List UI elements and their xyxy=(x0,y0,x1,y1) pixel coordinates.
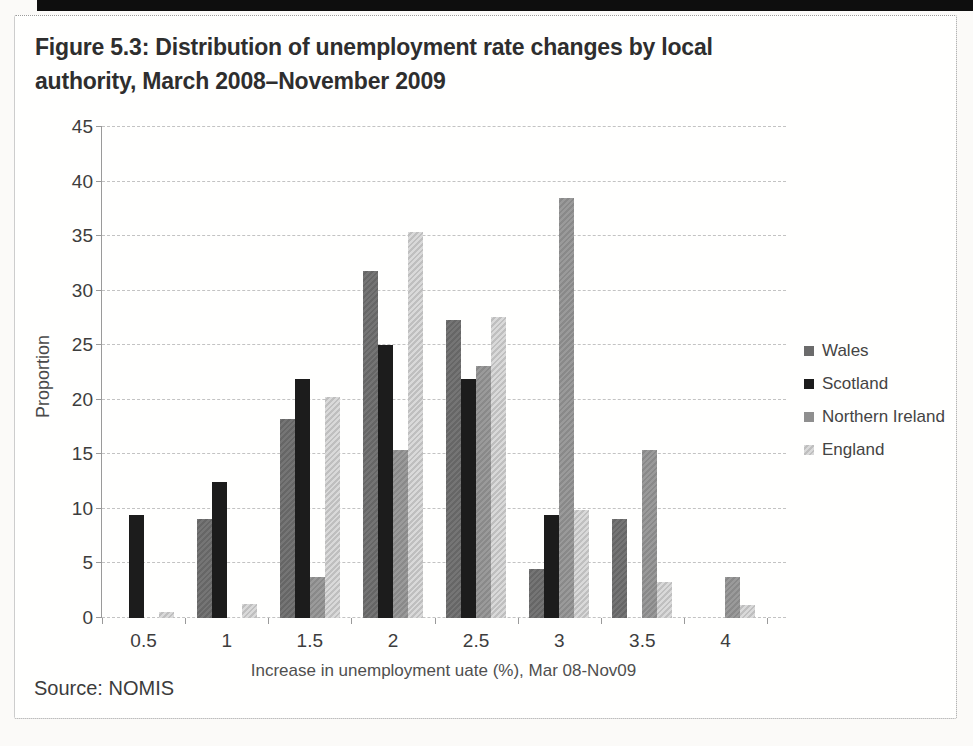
bar-wales-2.5 xyxy=(446,320,461,618)
x-tick-mark xyxy=(601,618,602,624)
bar-group-3 xyxy=(518,127,601,618)
bar-northern-ireland-4 xyxy=(725,577,740,619)
bar-scotland-1.5 xyxy=(295,379,310,618)
legend-swatch-wales xyxy=(804,346,814,356)
bar-northern-ireland-3 xyxy=(559,198,574,618)
bar-group-0.5 xyxy=(102,127,185,618)
legend-label-scotland: Scotland xyxy=(822,374,888,394)
x-tick-label-0.5: 0.5 xyxy=(114,630,174,652)
bar-wales-3.5 xyxy=(612,519,627,618)
bar-wales-3 xyxy=(529,569,544,618)
bar-england-1.5 xyxy=(325,397,340,619)
bar-chart: Proportion 0510152025303540450.511.522.5… xyxy=(15,16,958,720)
bar-northern-ireland-2.5 xyxy=(476,366,491,618)
x-tick-mark xyxy=(268,618,269,624)
y-axis-title: Proportion xyxy=(33,266,55,486)
x-tick-label-1.5: 1.5 xyxy=(280,630,340,652)
y-tick-label-25: 25 xyxy=(53,335,93,355)
bar-group-1 xyxy=(185,127,268,618)
plot-area: 0510152025303540450.511.522.533.54 xyxy=(101,127,786,618)
bar-england-4 xyxy=(740,605,755,618)
bar-scotland-2.5 xyxy=(461,379,476,618)
bar-england-3 xyxy=(574,510,589,618)
y-tick-label-30: 30 xyxy=(53,281,93,301)
bar-scotland-3 xyxy=(544,515,559,618)
y-tick-label-15: 15 xyxy=(53,444,93,464)
bar-wales-2 xyxy=(363,271,378,618)
y-tick-label-20: 20 xyxy=(53,390,93,410)
legend-swatch-scotland xyxy=(804,379,814,389)
x-tick-mark xyxy=(102,618,103,624)
legend-label-northern-ireland: Northern Ireland xyxy=(822,407,945,427)
x-axis-title: Increase in unemployment uate (%), Mar 0… xyxy=(101,661,786,681)
x-tick-mark xyxy=(767,618,768,624)
bar-england-2 xyxy=(408,232,423,618)
bar-scotland-1 xyxy=(212,482,227,618)
legend-swatch-northern-ireland xyxy=(804,412,814,422)
source-note: Source: NOMIS xyxy=(34,677,174,700)
x-tick-mark xyxy=(518,618,519,624)
y-tick-label-0: 0 xyxy=(53,608,93,628)
legend: WalesScotlandNorthern IrelandEngland xyxy=(804,334,954,466)
y-tick-label-45: 45 xyxy=(53,117,93,137)
x-tick-label-2.5: 2.5 xyxy=(446,630,506,652)
bar-england-2.5 xyxy=(491,317,506,618)
legend-item-england: England xyxy=(804,433,954,466)
legend-item-wales: Wales xyxy=(804,334,954,367)
x-tick-label-2: 2 xyxy=(363,630,423,652)
y-tick-label-10: 10 xyxy=(53,499,93,519)
bar-scotland-0.5 xyxy=(129,515,144,618)
legend-item-scotland: Scotland xyxy=(804,367,954,400)
bar-england-0.5 xyxy=(159,612,174,619)
legend-item-northern-ireland: Northern Ireland xyxy=(804,400,954,433)
bar-scotland-2 xyxy=(378,345,393,618)
x-tick-label-3.5: 3.5 xyxy=(612,630,672,652)
bar-england-3.5 xyxy=(657,582,672,618)
x-tick-mark xyxy=(684,618,685,624)
bar-wales-1 xyxy=(197,519,212,618)
legend-swatch-england xyxy=(804,445,814,455)
bar-northern-ireland-1.5 xyxy=(310,577,325,619)
x-tick-label-1: 1 xyxy=(197,630,257,652)
x-tick-mark xyxy=(351,618,352,624)
figure-box: Figure 5.3: Distribution of unemployment… xyxy=(14,15,957,719)
bar-group-3.5 xyxy=(601,127,684,618)
bar-wales-1.5 xyxy=(280,419,295,618)
bar-group-1.5 xyxy=(268,127,351,618)
x-tick-mark xyxy=(435,618,436,624)
bar-northern-ireland-3.5 xyxy=(642,450,657,618)
y-tick-label-5: 5 xyxy=(53,553,93,573)
scanned-page: Figure 5.3: Distribution of unemployment… xyxy=(0,0,973,746)
x-tick-label-4: 4 xyxy=(695,630,755,652)
legend-label-wales: Wales xyxy=(822,341,869,361)
bar-group-2.5 xyxy=(435,127,518,618)
bar-england-1 xyxy=(242,604,257,618)
scan-artifact-strip xyxy=(37,0,973,11)
bar-northern-ireland-2 xyxy=(393,450,408,618)
x-tick-mark xyxy=(185,618,186,624)
y-tick-label-35: 35 xyxy=(53,226,93,246)
y-tick-label-40: 40 xyxy=(53,172,93,192)
legend-label-england: England xyxy=(822,440,884,460)
bar-group-2 xyxy=(351,127,434,618)
bar-group-4 xyxy=(684,127,767,618)
x-tick-label-3: 3 xyxy=(529,630,589,652)
